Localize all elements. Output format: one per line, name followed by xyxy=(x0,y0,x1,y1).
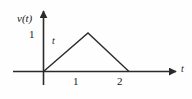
x-tick-label-2: 2 xyxy=(117,76,123,87)
y-tick-label-1: 1 xyxy=(29,29,35,40)
x-axis-label: t xyxy=(181,64,184,74)
x-tick-label-1: 1 xyxy=(73,76,79,87)
y-axis-label: v(t) xyxy=(17,13,32,24)
waveform-triangle xyxy=(44,33,130,72)
ramp-slope-label: t xyxy=(52,36,55,46)
waveform-figure: v(t) 1 t 1 2 t xyxy=(0,0,192,99)
